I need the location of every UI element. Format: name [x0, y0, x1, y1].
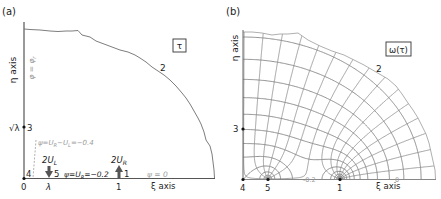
source-right-label: 2UR [111, 155, 127, 166]
phi-annotation: φ = φr [27, 56, 37, 80]
eta-axis-label-b: η axis [230, 34, 240, 61]
point-1-label-b: 1 [337, 183, 342, 193]
xi-axis-label-b: ξ axis [376, 181, 401, 191]
figure: (a) τ 2 η axis φ = φr √λ 3 ψ=UR−UL=−0.4 … [0, 0, 441, 199]
tick-0: 0 [21, 182, 26, 192]
tick-lambda: λ [45, 182, 51, 192]
origin-marker [22, 177, 25, 180]
down-arrow-icon [45, 166, 53, 178]
point-5-label: 5 [54, 169, 59, 179]
point-4-label: 4 [26, 169, 31, 179]
tick-1: 1 [116, 182, 121, 192]
up-arrow-icon [115, 165, 123, 178]
point-3-marker [22, 125, 25, 128]
source-left-label: 2UL [42, 155, 57, 166]
point-5-marker [266, 178, 269, 181]
panel-b-label: (b) [226, 6, 240, 17]
point-2-label-b: 2 [376, 64, 382, 74]
xi-axis-label: ξ axis [151, 181, 176, 191]
psi-streamline [33, 140, 36, 178]
point-1-marker [338, 178, 341, 181]
panel-a: (a) τ 2 η axis φ = φr √λ 3 ψ=UR−UL=−0.4 … [2, 6, 215, 192]
point-3-label-b: 3 [233, 124, 238, 134]
point-4-marker [241, 178, 244, 181]
sqrt-lambda-tick: √λ [9, 123, 19, 133]
point-3-marker-b [241, 127, 244, 130]
eta-axis-label: η axis [8, 56, 18, 83]
psi-zero-annotation: ψ = 0 [147, 170, 168, 179]
psi-top-annotation: ψ=UR−UL=−0.4 [38, 139, 94, 148]
domain-label: τ [177, 41, 182, 51]
panel-a-label: (a) [2, 6, 16, 17]
psi-mid-annotation: ψ=UR=−0.2 [64, 170, 109, 180]
point-2-label: 2 [160, 63, 166, 73]
point-5-label-b: 5 [265, 183, 270, 193]
point-1-label: 1 [124, 169, 129, 179]
contour-label: -0.2 [303, 176, 316, 184]
point-4-label-b: 4 [240, 183, 245, 193]
point-3-label: 3 [27, 123, 32, 133]
mapped-domain-label: ω(τ) [389, 45, 408, 55]
panel-b: (b) η axis ω(τ) 2 3 -0.2 0 4 5 1 ξ axis [226, 6, 437, 193]
